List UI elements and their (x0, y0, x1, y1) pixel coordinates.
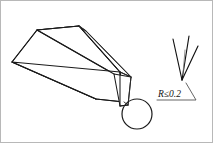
technical-drawing-figure: R≤0.2 (0, 0, 213, 143)
detail-edge-left (173, 39, 182, 80)
tip-detail-view (173, 36, 198, 80)
radius-label: R≤0.2 (157, 89, 181, 99)
elongated-wedge-body (12, 26, 131, 102)
magnification-circle (122, 99, 152, 129)
figure-canvas: R≤0.2 (0, 0, 213, 143)
